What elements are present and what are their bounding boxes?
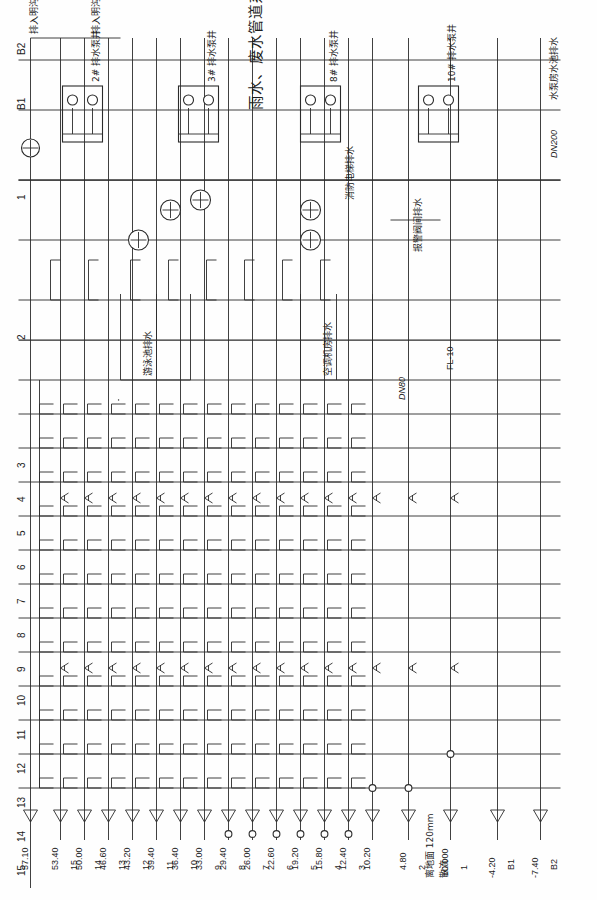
level-elevation: 15.80	[313, 847, 323, 870]
vent-mark	[276, 493, 284, 503]
vent-mark	[132, 663, 140, 673]
floor-lines	[30, 38, 540, 888]
column-number: 2	[15, 334, 26, 340]
alarm-valve-room-drain-group: 报警阀间排水	[390, 198, 440, 252]
cleanout-icon	[321, 831, 328, 838]
discharge-to-ditch-group: 排入明沟 排入明沟	[27, 0, 120, 38]
vent-mark	[204, 663, 212, 673]
pump-icon	[183, 95, 193, 105]
level-floor: 1	[458, 865, 468, 870]
vent-mark	[180, 493, 188, 503]
column-number: 4	[15, 496, 26, 502]
fixture-row	[135, 404, 149, 788]
vent-mark	[60, 493, 68, 503]
column-number: 7	[15, 598, 26, 604]
vent-mark	[408, 663, 416, 673]
riser-columns	[18, 60, 560, 788]
riser-tag-fl10: FL-10	[444, 346, 454, 370]
pump-icon	[203, 95, 213, 105]
level-elevation: 43.20	[121, 847, 131, 870]
fire-elevator-drain-label: 消防电梯排水	[343, 146, 354, 200]
cleanout-icon	[297, 831, 304, 838]
pump-room-pool-drain-size: DN200	[548, 130, 558, 158]
pump-well-label: 2# 排水泵井	[89, 30, 100, 82]
fixture-row	[303, 404, 317, 788]
vent-mark	[204, 493, 212, 503]
level-elevation: 39.40	[145, 847, 155, 870]
column-number: 11	[15, 729, 26, 740]
column-number: 14	[15, 830, 26, 842]
level-elevation-b2: -7.40	[529, 857, 539, 878]
cleanout-icon	[405, 785, 412, 792]
pump-icon	[325, 95, 335, 105]
vent-mark	[348, 663, 356, 673]
fixture-row	[87, 404, 101, 788]
pump-icon	[87, 95, 97, 105]
column-number: 5	[15, 530, 26, 536]
discharge-ditch-label-1: 排入明沟	[27, 0, 38, 34]
column-number: 10	[15, 694, 26, 706]
roof-branch-run	[39, 380, 53, 788]
vent-mark	[276, 663, 284, 673]
vent-mark	[228, 663, 236, 673]
vent-mark	[108, 663, 116, 673]
level-elevation: 53.40	[49, 847, 59, 870]
vent-marks	[60, 493, 458, 673]
vent-mark	[252, 663, 260, 673]
pump-icon	[423, 95, 433, 105]
swimming-pool-drain-group: 游泳池排水	[118, 190, 210, 400]
level-elevation: 10.20	[361, 847, 371, 870]
level-elevation: 29.40	[217, 847, 227, 870]
cleanout-icon	[225, 831, 232, 838]
basement-axis-labels: B1 B2	[15, 42, 26, 110]
vent-mark	[228, 493, 236, 503]
column-number: 6	[15, 564, 26, 570]
cleanout-icon	[447, 751, 454, 758]
vent-mark	[450, 663, 458, 673]
fixture-row	[183, 404, 197, 788]
pump-room-pool-drain-group: 水泵房水池排水 DN200	[21, 37, 558, 158]
level-elevation: 36.40	[169, 847, 179, 870]
level-markers: 57.10 53.40 15 50.00 14 46.60 13	[19, 810, 558, 878]
vent-mark	[324, 663, 332, 673]
column-number: 9	[15, 666, 26, 672]
fixture-row	[255, 404, 269, 788]
column-number: 15	[15, 864, 26, 876]
level-marker: -7.40 B2	[529, 810, 558, 878]
vent-mark	[84, 493, 92, 503]
cleanout-icon	[369, 785, 376, 792]
fixture-row	[231, 404, 245, 788]
level-elevation: 26.00	[241, 847, 251, 870]
riser-diagram-svg: 57.10 53.40 15 50.00 14 46.60 13	[0, 0, 597, 900]
fixture-row	[111, 404, 125, 788]
vent-mark	[156, 663, 164, 673]
column-number: 8	[15, 632, 26, 638]
pump-well-label: 8# 排水泵井	[327, 30, 338, 82]
vent-mark	[300, 663, 308, 673]
pump-well-10: 10# 排水泵井	[418, 24, 458, 142]
level-elevation: 50.00	[73, 847, 83, 870]
fixture-row	[327, 404, 341, 788]
ground-spread-label: 散流	[437, 860, 448, 878]
level-elevation: 19.20	[289, 847, 299, 870]
level-marker: 10.20	[361, 810, 379, 870]
level-marker: 4.80 2	[397, 810, 426, 870]
level-elevation: 4.80	[397, 852, 407, 870]
fixture-row	[279, 404, 293, 788]
fixture-row	[207, 404, 221, 788]
hvac-room-drain-label: 空调机房排水	[321, 322, 332, 376]
drawing-title-group: 雨水、废水管道系统图	[247, 0, 263, 110]
vent-mark	[156, 493, 164, 503]
vent-mark	[60, 663, 68, 673]
level-elevation: 22.60	[265, 847, 275, 870]
pump-icon	[443, 95, 453, 105]
level-elevation-b1: -4.20	[486, 857, 496, 878]
level-floor-b2: B2	[548, 859, 558, 870]
pump-room-pool-drain-label: 水泵房水池排水	[547, 37, 558, 100]
basement-axis-b1: B1	[15, 97, 26, 110]
column-number: 12	[15, 762, 26, 774]
ground-clearance-label: 离地面 120mm	[423, 813, 434, 878]
fixture-row	[351, 404, 365, 788]
column-number-row: 15 14 13 12 11 10 9 8 7 6 5 4 3 2 1	[15, 194, 26, 876]
pump-well-2: 2# 排水泵井	[62, 30, 102, 142]
